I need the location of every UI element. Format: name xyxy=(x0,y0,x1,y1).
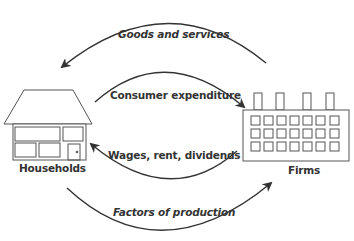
firms-label: Firms xyxy=(288,164,320,176)
circular-flow-diagram: Goods and services Consumer expenditure … xyxy=(0,0,354,241)
goods-and-services-label: Goods and services xyxy=(118,28,229,40)
factors-of-production-label: Factors of production xyxy=(113,206,235,218)
wages-rent-dividends-label: Wages, rent, dividends xyxy=(108,149,240,161)
consumer-expenditure-label: Consumer expenditure xyxy=(110,89,241,101)
house-icon xyxy=(4,90,92,160)
households-label: Households xyxy=(19,162,86,174)
factory-icon xyxy=(243,93,349,161)
